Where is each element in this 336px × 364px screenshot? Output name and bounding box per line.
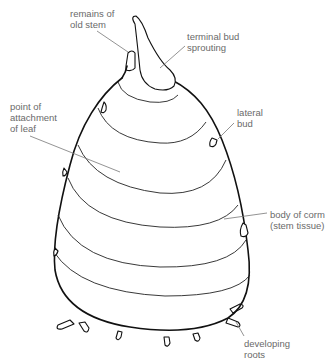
leader-terminal-bud	[160, 46, 185, 68]
leader-body-of-corm	[224, 213, 267, 219]
roots	[57, 304, 243, 346]
leader-lateral-bud	[218, 123, 234, 139]
band-3	[78, 145, 226, 193]
lateral-bud-right-low	[240, 223, 248, 237]
leader-old-stem	[97, 31, 128, 52]
band-2	[98, 108, 206, 143]
lateral-bud-left-low	[54, 248, 58, 256]
label-body-of-corm: body of corm (stem tissue)	[270, 209, 325, 231]
corm-body-outline	[54, 78, 249, 330]
band-4	[68, 178, 238, 227]
label-point-of-attachment-of-leaf: point of attachment of leaf	[10, 101, 57, 134]
corm-diagram	[0, 0, 336, 364]
terminal-bud	[133, 16, 176, 90]
lateral-bud-left-mid	[63, 168, 67, 176]
lateral-bud-right	[210, 138, 217, 147]
label-lateral-bud: lateral bud	[237, 107, 263, 129]
label-developing-roots: developing roots	[244, 338, 290, 360]
label-remains-of-old-stem: remains of old stem	[70, 8, 114, 30]
label-terminal-bud-sprouting: terminal bud sprouting	[187, 31, 239, 53]
lateral-bud-top-left	[101, 102, 106, 113]
leader-attachment-leaf	[30, 136, 120, 172]
band-6	[54, 252, 250, 296]
band-5	[58, 215, 246, 267]
